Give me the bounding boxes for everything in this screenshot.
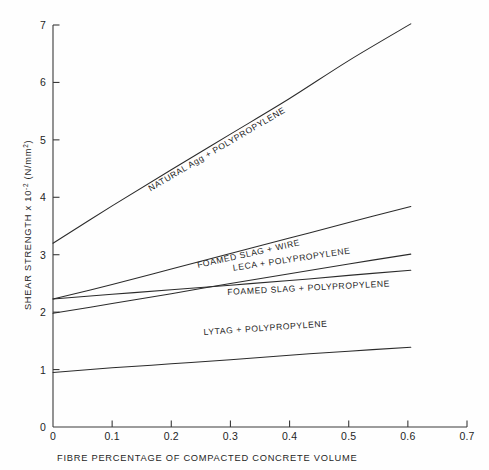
x-tick-label: 0.4 <box>282 430 297 442</box>
series-label-0: NATURAL Agg + POLYPROPYLENE <box>147 105 288 193</box>
x-tick-label: 0.5 <box>341 430 356 442</box>
x-tick-label: 0 <box>50 430 56 442</box>
x-tick-label: 0.6 <box>400 430 415 442</box>
axes-group <box>53 25 467 427</box>
y-tick-label: 1 <box>40 364 46 376</box>
series-label-3: FOAMED SLAG + POLYPROPYLENE <box>227 278 390 297</box>
x-tick-label: 0.2 <box>164 430 179 442</box>
y-tick-label: 2 <box>40 306 46 318</box>
x-tick-label: 0.7 <box>459 430 474 442</box>
y-tick-label: 7 <box>40 19 46 31</box>
y-axis-title: SHEAR STRENGTH x 10-2 (N/mm2) <box>22 140 34 310</box>
y-tick-label: 5 <box>40 134 46 146</box>
x-tick-label: 0.1 <box>105 430 120 442</box>
y-tick-label: 6 <box>40 76 46 88</box>
y-tick-label: 0 <box>40 421 46 433</box>
series-line-4 <box>53 347 411 372</box>
tick-labels-group: 0123456700.10.20.30.40.50.60.7 <box>40 19 475 442</box>
y-tick-label: 4 <box>40 191 46 203</box>
tick-marks-group <box>53 25 467 427</box>
series-lines-group <box>53 24 411 373</box>
x-tick-label: 0.3 <box>223 430 238 442</box>
chart-figure: 0123456700.10.20.30.40.50.60.7 NATURAL A… <box>0 0 489 470</box>
axis-titles-group: FIBRE PERCENTAGE OF COMPACTED CONCRETE V… <box>22 140 358 463</box>
series-label-4: LYTAG + POLYPROPYLENE <box>203 318 328 337</box>
x-axis-title: FIBRE PERCENTAGE OF COMPACTED CONCRETE V… <box>57 453 357 463</box>
chart-plot-area: 0123456700.10.20.30.40.50.60.7 NATURAL A… <box>0 0 489 470</box>
y-tick-label: 3 <box>40 249 46 261</box>
